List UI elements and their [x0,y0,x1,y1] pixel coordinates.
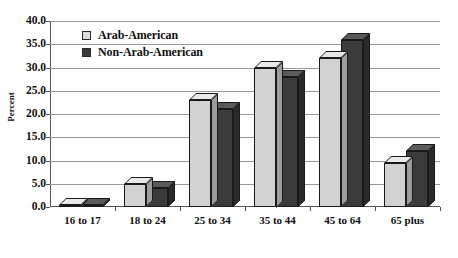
bar-light [189,100,211,207]
bar-group [319,21,370,207]
x-tick-mark [440,207,441,211]
bar-light [254,68,276,208]
y-tick-label: 0.0 [6,201,46,213]
legend-label: Non-Arab-American [98,45,203,60]
bar-face [81,205,103,207]
y-tick-label: 30.0 [6,62,46,74]
x-tick-mark [310,207,311,211]
y-tick-label: 40.0 [6,15,46,27]
bar-light [124,184,146,207]
bar-face [59,205,81,207]
legend-swatch-dark [82,48,91,57]
bar-light [384,163,406,207]
x-tick-label: 65 plus [367,214,448,226]
y-axis-tick-labels: 0.05.010.015.020.025.030.035.040.0 [0,0,46,258]
bar-side [233,103,240,207]
bar-face [189,100,211,207]
bar-face [384,163,406,207]
y-tick-label: 25.0 [6,85,46,97]
bar-face [254,68,276,208]
y-tick-label: 20.0 [6,108,46,120]
bar-group [254,21,305,207]
y-tick-label: 15.0 [6,131,46,143]
x-tick-mark [245,207,246,211]
bar-side [341,51,348,207]
chart-legend: Arab-AmericanNon-Arab-American [82,28,203,59]
bar-light [59,205,81,207]
x-axis-tick-labels: 16 to 1718 to 2425 to 3435 to 4445 to 64… [50,214,450,236]
bar-light [319,58,341,207]
y-tick-label: 5.0 [6,178,46,190]
bar-side [363,33,370,207]
legend-swatch-light [82,31,91,40]
x-tick-mark [375,207,376,211]
y-tick-mark [46,207,50,208]
bar-side [276,61,283,207]
bar-side [428,144,435,207]
y-tick-label: 10.0 [6,155,46,167]
x-tick-mark [115,207,116,211]
legend-item: Arab-American [82,28,203,42]
bar-chart: Percent 0.05.010.015.020.025.030.035.040… [0,0,458,258]
bar-face [124,184,146,207]
bar-face [319,58,341,207]
legend-label: Arab-American [98,28,178,43]
bar-side [406,156,413,207]
bar-side [211,93,218,207]
bar-group [384,21,435,207]
bar-side [298,70,305,207]
bar-dark [81,205,103,207]
y-tick-label: 35.0 [6,38,46,50]
legend-item: Non-Arab-American [82,45,203,59]
x-tick-mark [180,207,181,211]
